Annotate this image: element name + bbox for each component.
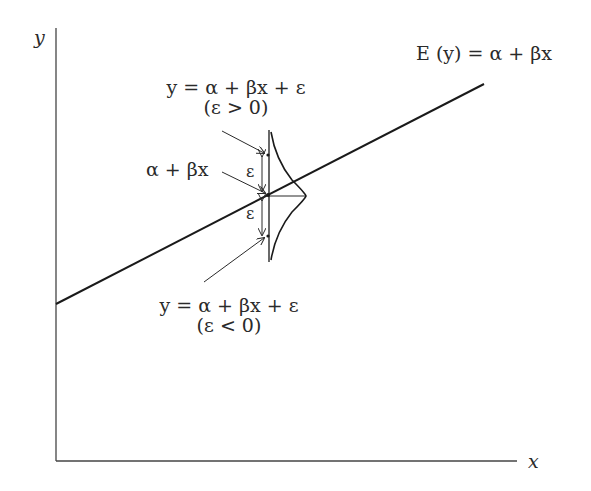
lower-observation-point	[266, 234, 269, 237]
upper-point-condition: (ε > 0)	[146, 98, 326, 117]
y-axis-label: y	[34, 28, 45, 47]
regression-line	[56, 84, 484, 304]
mean-point	[266, 193, 270, 197]
upper-point-pointer-arrow	[222, 131, 264, 153]
upper-point-equation: y = α + βx + ε	[146, 78, 326, 97]
lower-point-label: y = α + βx + ε (ε < 0)	[136, 296, 322, 335]
regression-diagram: y x E (y) = α + βx y = α + βx + ε (ε > 0…	[0, 0, 591, 491]
lower-point-pointer-arrow	[204, 238, 264, 282]
lower-error-label: ε	[246, 206, 254, 222]
mean-point-label: α + βx	[146, 160, 209, 179]
lower-point-equation: y = α + βx + ε	[136, 296, 322, 315]
diagram-graphics	[0, 0, 591, 491]
lower-point-condition: (ε < 0)	[136, 316, 322, 335]
upper-point-label: y = α + βx + ε (ε > 0)	[146, 78, 326, 117]
upper-observation-point	[266, 153, 269, 156]
x-axis-label: x	[528, 452, 539, 471]
upper-error-label: ε	[246, 164, 254, 180]
regression-line-label: E (y) = α + βx	[416, 44, 552, 63]
mean-point-pointer-arrow	[222, 172, 265, 193]
